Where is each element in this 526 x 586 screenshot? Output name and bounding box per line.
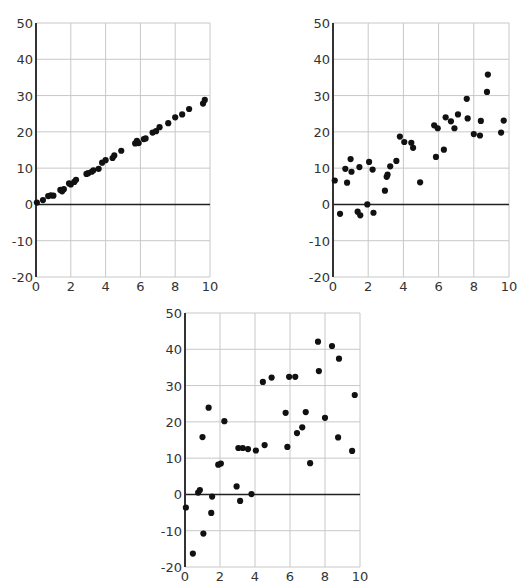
data-point [248, 491, 254, 497]
x-tick-label: 10 [501, 279, 518, 294]
data-point [384, 172, 390, 178]
x-tick-label: 10 [352, 569, 369, 584]
data-point [441, 147, 447, 153]
data-point [240, 445, 246, 451]
y-tick-label: 20 [313, 125, 330, 140]
data-point [433, 154, 439, 160]
data-point [370, 210, 376, 216]
data-point [40, 197, 46, 203]
data-point [410, 145, 416, 151]
data-point [364, 201, 370, 207]
data-point [96, 166, 102, 172]
y-tick-label: -20 [309, 270, 330, 285]
data-point [269, 374, 275, 380]
data-point [448, 118, 454, 124]
data-point [498, 129, 504, 135]
y-tick-label: -10 [12, 234, 33, 249]
data-point [315, 339, 321, 345]
data-point [435, 125, 441, 131]
data-point [172, 114, 178, 120]
y-tick-label: 10 [313, 161, 330, 176]
data-point [397, 133, 403, 139]
x-tick-label: 2 [216, 569, 224, 584]
data-point [165, 120, 171, 126]
x-tick-label: 0 [32, 279, 40, 294]
y-tick-label: 50 [16, 16, 33, 31]
data-point [253, 447, 259, 453]
y-tick-label: 50 [165, 306, 182, 321]
data-point [322, 415, 328, 421]
data-point [485, 71, 491, 77]
data-point [73, 177, 79, 183]
data-point [349, 448, 355, 454]
x-tick-label: 0 [181, 569, 189, 584]
y-tick-label: 30 [313, 89, 330, 104]
data-point [218, 460, 224, 466]
y-tick-label: 0 [174, 487, 182, 502]
data-point [348, 169, 354, 175]
data-point [332, 177, 338, 183]
x-tick-label: 4 [251, 569, 259, 584]
chart-canvas: 0246810-20-1001020304050 [148, 290, 378, 586]
data-point [284, 444, 290, 450]
data-point [336, 356, 342, 362]
data-point [190, 550, 196, 556]
y-tick-label: 50 [313, 16, 330, 31]
y-tick-label: 0 [25, 197, 33, 212]
y-tick-label: -20 [12, 270, 33, 285]
data-point [303, 409, 309, 415]
data-point [307, 460, 313, 466]
scatter-chart-3: 0246810-20-1001020304050 [148, 290, 378, 586]
data-point [357, 212, 363, 218]
data-point [111, 152, 117, 158]
data-point [294, 430, 300, 436]
data-point [199, 434, 205, 440]
data-point [206, 405, 212, 411]
data-point [417, 179, 423, 185]
data-point [283, 410, 289, 416]
data-point [136, 140, 142, 146]
y-tick-label: 30 [165, 379, 182, 394]
data-point [234, 483, 240, 489]
x-tick-label: 4 [399, 279, 407, 294]
data-point [90, 167, 96, 173]
data-point [197, 487, 203, 493]
data-point [262, 442, 268, 448]
x-tick-label: 8 [470, 279, 478, 294]
y-tick-label: 0 [322, 197, 330, 212]
data-point [186, 106, 192, 112]
data-point [118, 148, 124, 154]
scatter-chart-2: 0246810-20-1001020304050 [263, 0, 526, 300]
data-point [237, 498, 243, 504]
data-point [366, 159, 372, 165]
data-point [501, 118, 507, 124]
scatter-chart-1: 0246810-20-1001020304050 [0, 0, 263, 300]
data-point [465, 115, 471, 121]
data-point [221, 418, 227, 424]
data-point [342, 166, 348, 172]
data-point [393, 158, 399, 164]
data-point [286, 374, 292, 380]
data-point [50, 193, 56, 199]
data-point [179, 111, 185, 117]
x-tick-label: 6 [434, 279, 442, 294]
y-tick-label: -10 [161, 524, 182, 539]
data-point [471, 131, 477, 137]
data-point [451, 125, 457, 131]
chart-canvas: 0246810-20-1001020304050 [0, 0, 263, 300]
chart-canvas: 0246810-20-1001020304050 [263, 0, 526, 300]
y-tick-label: 10 [16, 161, 33, 176]
data-point [200, 531, 206, 537]
data-point [387, 163, 393, 169]
data-point [143, 135, 149, 141]
data-point [484, 89, 490, 95]
y-tick-label: 10 [165, 451, 182, 466]
data-point [183, 504, 189, 510]
data-point [337, 211, 343, 217]
data-point [443, 114, 449, 120]
data-point [464, 96, 470, 102]
data-point [299, 424, 305, 430]
data-point [156, 124, 162, 130]
x-tick-label: 8 [321, 569, 329, 584]
y-tick-label: -10 [309, 234, 330, 249]
